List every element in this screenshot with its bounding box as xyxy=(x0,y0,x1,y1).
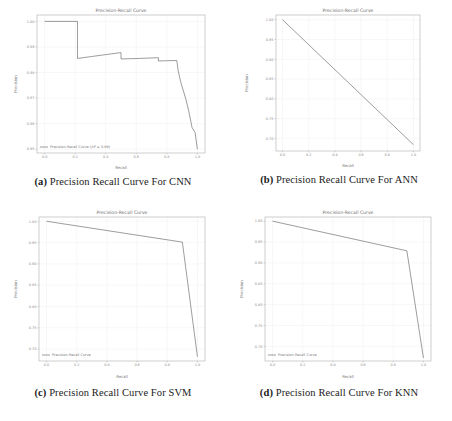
x-tick-label: 0.0 xyxy=(42,155,47,159)
x-axis-label: Recall xyxy=(115,165,127,170)
x-tick-label: 1.0 xyxy=(411,153,416,157)
legend-label: Precision-Recall Curve xyxy=(52,353,91,357)
y-axis-label: Precision xyxy=(13,280,18,298)
x-tick-label: 0.2 xyxy=(300,363,305,367)
x-tick-label: 0.6 xyxy=(134,363,139,367)
x-tick-label: 0.6 xyxy=(134,155,139,159)
caption-text-cnn: Precision Recall Curve For CNN xyxy=(50,176,192,187)
chart-title: Precision-Recall Curve xyxy=(323,8,374,13)
y-tick-label: 1.00 xyxy=(29,220,37,224)
x-tick-label: 1.0 xyxy=(195,363,200,367)
plot-frame xyxy=(37,15,205,153)
y-axis-label: Precision xyxy=(244,74,249,92)
chart-svg: 0.00.20.40.60.81.00.700.750.800.850.900.… xyxy=(244,2,434,168)
y-tick-label: 0.85 xyxy=(266,77,274,81)
y-tick-label: 0.95 xyxy=(29,241,37,245)
y-tick-label: 0.99 xyxy=(27,45,35,49)
x-tick-label: 0.4 xyxy=(332,153,337,157)
x-axis-label: Recall xyxy=(342,374,354,379)
panel-svm: 0.00.20.40.60.81.00.700.750.800.850.900.… xyxy=(0,200,226,421)
y-axis-label: Precision xyxy=(13,75,18,93)
chart-title: Precision-Recall Curve xyxy=(97,210,148,215)
panel-cnn: 0.00.20.40.60.81.00.950.960.970.980.991.… xyxy=(0,0,226,200)
x-tick-label: 1.0 xyxy=(421,363,426,367)
caption-svm: (c) Precision Recall Curve For SVM xyxy=(34,387,191,398)
chart-svg: 0.00.20.40.60.81.00.950.960.970.980.991.… xyxy=(13,2,213,170)
caption-label-cnn: (a) xyxy=(34,176,47,187)
x-axis-label: Recall xyxy=(342,163,354,168)
x-tick-label: 0.8 xyxy=(385,153,390,157)
chart-title: Precision-Recall Curve xyxy=(323,210,374,215)
x-tick-label: 0.6 xyxy=(360,363,365,367)
y-tick-label: 1.00 xyxy=(266,18,274,22)
figure-grid: 0.00.20.40.60.81.00.950.960.970.980.991.… xyxy=(0,0,452,421)
caption-text-ann: Precision Recall Curve For ANN xyxy=(276,174,418,185)
data-curve xyxy=(47,221,198,356)
y-tick-label: 0.95 xyxy=(255,240,263,244)
x-tick-label: 0.0 xyxy=(44,363,49,367)
y-tick-label: 0.80 xyxy=(266,97,274,101)
y-tick-label: 0.95 xyxy=(266,38,274,42)
y-tick-label: 0.95 xyxy=(27,147,35,151)
y-tick-label: 0.75 xyxy=(29,326,37,330)
y-tick-label: 0.96 xyxy=(27,122,35,126)
chart-title: Precision-Recall Curve xyxy=(96,8,147,13)
plot-cnn: 0.00.20.40.60.81.00.950.960.970.980.991.… xyxy=(13,2,213,170)
caption-text-knn: Precision Recall Curve For KNN xyxy=(276,387,418,398)
data-curve xyxy=(45,21,198,149)
caption-label-ann: (b) xyxy=(260,174,273,185)
chart-svg: 0.00.20.40.60.81.00.700.750.800.850.900.… xyxy=(13,204,213,379)
caption-cnn: (a) Precision Recall Curve For CNN xyxy=(34,176,191,187)
y-tick-label: 0.90 xyxy=(266,58,274,62)
panel-knn: 0.00.20.40.60.81.00.700.750.800.850.900.… xyxy=(226,200,452,421)
x-tick-label: 0.0 xyxy=(280,153,285,157)
caption-ann: (b) Precision Recall Curve For ANN xyxy=(260,174,418,185)
plot-frame xyxy=(39,217,205,361)
data-curve xyxy=(283,20,414,145)
y-tick-label: 1.00 xyxy=(255,219,263,223)
y-tick-label: 0.90 xyxy=(255,261,263,265)
data-curve xyxy=(273,221,424,358)
y-tick-label: 0.75 xyxy=(255,324,263,328)
x-tick-label: 0.6 xyxy=(358,153,363,157)
x-tick-label: 0.4 xyxy=(103,155,108,159)
y-tick-label: 0.70 xyxy=(266,137,274,141)
y-tick-label: 0.97 xyxy=(27,96,35,100)
y-tick-label: 0.75 xyxy=(266,117,274,121)
x-tick-label: 0.2 xyxy=(74,363,79,367)
y-tick-label: 0.85 xyxy=(29,283,37,287)
y-tick-label: 1.00 xyxy=(27,20,35,24)
x-tick-label: 0.0 xyxy=(270,363,275,367)
y-axis-label: Precision xyxy=(239,280,244,298)
legend-label: Precision-Recall Curve (AP = 0.99) xyxy=(50,145,111,149)
y-tick-label: 0.80 xyxy=(29,305,37,309)
x-tick-label: 0.4 xyxy=(330,363,335,367)
x-axis-label: Recall xyxy=(116,374,128,379)
y-tick-label: 0.98 xyxy=(27,71,35,75)
x-tick-label: 0.2 xyxy=(72,155,77,159)
chart-svg: 0.00.20.40.60.81.00.700.750.800.850.900.… xyxy=(239,204,439,379)
x-tick-label: 0.8 xyxy=(391,363,396,367)
y-tick-label: 0.80 xyxy=(255,303,263,307)
caption-knn: (d) Precision Recall Curve For KNN xyxy=(260,387,418,398)
y-tick-label: 0.85 xyxy=(255,282,263,286)
x-tick-label: 1.0 xyxy=(195,155,200,159)
x-tick-label: 0.4 xyxy=(104,363,109,367)
y-tick-label: 0.70 xyxy=(255,345,263,349)
plot-frame xyxy=(265,217,431,361)
caption-label-svm: (c) xyxy=(34,387,46,398)
plot-svm: 0.00.20.40.60.81.00.700.750.800.850.900.… xyxy=(13,204,213,379)
x-tick-label: 0.8 xyxy=(165,363,170,367)
x-tick-label: 0.2 xyxy=(306,153,311,157)
plot-knn: 0.00.20.40.60.81.00.700.750.800.850.900.… xyxy=(239,204,439,379)
y-tick-label: 0.70 xyxy=(29,347,37,351)
y-tick-label: 0.90 xyxy=(29,262,37,266)
legend-label: Precision-Recall Curve xyxy=(278,353,317,357)
caption-label-knn: (d) xyxy=(260,387,273,398)
plot-ann: 0.00.20.40.60.81.00.700.750.800.850.900.… xyxy=(244,2,434,168)
panel-ann: 0.00.20.40.60.81.00.700.750.800.850.900.… xyxy=(226,0,452,200)
x-tick-label: 0.8 xyxy=(164,155,169,159)
caption-text-svm: Precision Recall Curve For SVM xyxy=(49,387,191,398)
